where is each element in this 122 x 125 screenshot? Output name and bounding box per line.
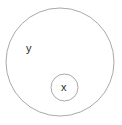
diagram-canvas: y x	[0, 0, 122, 125]
inner-set-label: x	[61, 82, 67, 93]
outer-set-label: y	[26, 43, 32, 54]
set-diagram	[0, 0, 122, 125]
